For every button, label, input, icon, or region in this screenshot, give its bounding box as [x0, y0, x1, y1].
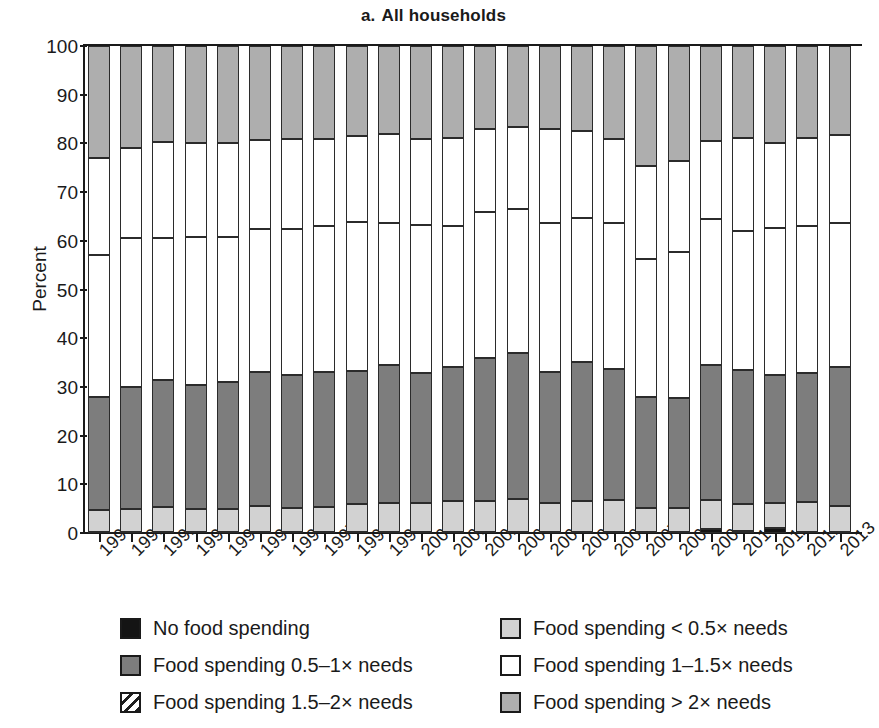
bar-segment-h15to2 — [442, 138, 464, 226]
bar-segment-h05to1 — [700, 365, 722, 500]
bar-segment-lt05 — [185, 509, 207, 532]
bar-segment-h15to2 — [88, 158, 110, 255]
bar-segment-lt05 — [539, 503, 561, 532]
stacked-bar[interactable] — [635, 46, 657, 533]
bar-segment-lt05 — [442, 501, 464, 531]
stacked-bar[interactable] — [829, 46, 851, 533]
stacked-bar[interactable] — [185, 46, 207, 533]
bar-segment-h15to2 — [732, 138, 754, 231]
stacked-bar[interactable] — [603, 46, 625, 533]
bar-segment-lt05 — [88, 510, 110, 531]
stacked-bar[interactable] — [313, 46, 335, 533]
stacked-bar[interactable] — [88, 46, 110, 533]
stacked-bar[interactable] — [378, 46, 400, 533]
bar-segment-h05to1 — [603, 369, 625, 500]
legend-label: Food spending > 2× needs — [533, 691, 771, 714]
bar-segment-lt05 — [313, 507, 335, 532]
bar-segment-lt05 — [700, 500, 722, 529]
bar-segment-h15to2 — [217, 143, 239, 237]
bar-segment-h1to15 — [668, 252, 690, 398]
stacked-bar[interactable] — [796, 46, 818, 533]
bar-segment-h05to1 — [571, 362, 593, 501]
bar-segment-lt05 — [120, 509, 142, 532]
stacked-bar[interactable] — [120, 46, 142, 533]
bar-segment-h1to15 — [152, 238, 174, 379]
chart-legend: No food spendingFood spending 0.5–1× nee… — [120, 610, 860, 722]
bar-segment-lt05 — [152, 507, 174, 532]
dark-gray-swatch — [120, 655, 141, 676]
bar-segment-gt2 — [732, 46, 754, 138]
stacked-bar[interactable] — [507, 46, 529, 533]
bar-segment-h1to15 — [185, 237, 207, 385]
bar-segment-gt2 — [829, 46, 851, 135]
legend-column-right: Food spending < 0.5× needsFood spending … — [500, 610, 860, 721]
bar-segment-h1to15 — [603, 223, 625, 370]
hatched-swatch — [120, 692, 141, 713]
legend-label: Food spending < 0.5× needs — [533, 617, 788, 640]
bar-segment-h15to2 — [603, 139, 625, 223]
bar-segment-h1to15 — [410, 225, 432, 374]
stacked-bar[interactable] — [442, 46, 464, 533]
bar-segment-gt2 — [378, 46, 400, 134]
bar-segment-h15to2 — [668, 161, 690, 252]
bar-segment-lt05 — [378, 503, 400, 531]
bar-segment-gt2 — [635, 46, 657, 166]
bar-segment-gt2 — [700, 46, 722, 141]
bar-segment-h1to15 — [120, 238, 142, 387]
bar-segment-h1to15 — [796, 226, 818, 374]
bar-segment-h05to1 — [732, 370, 754, 503]
bar-segment-gt2 — [442, 46, 464, 138]
bar-segment-h15to2 — [378, 134, 400, 223]
stacked-bar[interactable] — [474, 46, 496, 533]
stacked-bar[interactable] — [410, 46, 432, 533]
bar-segment-h15to2 — [571, 131, 593, 219]
bar-segment-h15to2 — [507, 127, 529, 209]
bar-segment-gt2 — [185, 46, 207, 143]
stacked-bar[interactable] — [732, 46, 754, 533]
legend-item-h05to1[interactable]: Food spending 0.5–1× needs — [120, 647, 480, 684]
bar-segment-h1to15 — [313, 226, 335, 372]
bar-segment-h05to1 — [378, 365, 400, 503]
bar-segment-h1to15 — [217, 237, 239, 382]
bar-segment-lt05 — [603, 500, 625, 531]
bar-segment-gt2 — [120, 46, 142, 148]
bar-segment-h15to2 — [249, 140, 271, 229]
stacked-bar[interactable] — [249, 46, 271, 533]
black-solid-swatch — [120, 618, 141, 639]
stacked-bar[interactable] — [346, 46, 368, 533]
legend-item-gt2[interactable]: Food spending > 2× needs — [500, 684, 860, 721]
legend-item-h1to15[interactable]: Food spending 1–1.5× needs — [500, 647, 860, 684]
bar-segment-h1to15 — [700, 219, 722, 365]
stacked-bar[interactable] — [668, 46, 690, 533]
bar-segment-h05to1 — [668, 398, 690, 508]
stacked-bar[interactable] — [539, 46, 561, 533]
bar-segment-gt2 — [796, 46, 818, 138]
bar-segment-h1to15 — [829, 223, 851, 367]
bar-segment-h05to1 — [152, 380, 174, 507]
bar-segment-gt2 — [603, 46, 625, 139]
legend-item-lt05[interactable]: Food spending < 0.5× needs — [500, 610, 860, 647]
bar-segment-h05to1 — [346, 371, 368, 504]
bar-segment-gt2 — [668, 46, 690, 161]
bar-segment-h1to15 — [378, 223, 400, 366]
bar-segment-h05to1 — [442, 367, 464, 501]
bar-segment-lt05 — [764, 503, 786, 528]
bar-segment-lt05 — [346, 504, 368, 531]
bar-segment-h1to15 — [442, 226, 464, 368]
legend-item-none[interactable]: No food spending — [120, 610, 480, 647]
stacked-bar[interactable] — [281, 46, 303, 533]
bar-segment-h05to1 — [539, 372, 561, 503]
bar-segment-h05to1 — [507, 353, 529, 500]
legend-item-h15to2[interactable]: Food spending 1.5–2× needs — [120, 684, 480, 721]
mid-gray-swatch — [500, 692, 521, 713]
stacked-bar[interactable] — [700, 46, 722, 533]
stacked-bar[interactable] — [571, 46, 593, 533]
bar-segment-lt05 — [217, 509, 239, 531]
bar-segment-h15to2 — [410, 139, 432, 225]
bar-segment-h05to1 — [217, 382, 239, 509]
bar-segment-h15to2 — [700, 141, 722, 219]
stacked-bar[interactable] — [764, 46, 786, 533]
bar-segment-lt05 — [281, 508, 303, 532]
stacked-bar[interactable] — [217, 46, 239, 533]
stacked-bar[interactable] — [152, 46, 174, 533]
